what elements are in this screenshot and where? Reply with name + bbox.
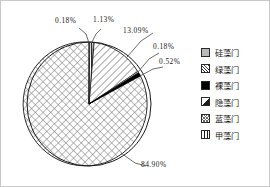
legend-swatch-diagonal-icon: [201, 64, 210, 73]
leader-line-yinzaomen: [138, 53, 159, 72]
percent-label-jiazaomen: 1.13%: [93, 15, 114, 24]
leader-line-lvzaomen: [127, 33, 153, 57]
legend-label-luozaomen: 裸藻门: [215, 79, 239, 91]
legend-label-guizaomen: 硅藻门: [215, 46, 239, 58]
pie-chart-area: 0.18% 1.13% 13.09% 0.18% 0.52% 84.90%: [1, 1, 196, 187]
leader-line-jiazaomen: [92, 29, 102, 43]
percent-label-yinzaomen: 0.18%: [153, 42, 174, 51]
legend-item-lvzaomen[interactable]: 绿藻门: [201, 61, 265, 78]
percent-label-lanzaomen: 84.90%: [141, 160, 167, 169]
percent-label-guizaomen: 0.18%: [55, 16, 76, 25]
pie-chart-svg: [1, 1, 196, 187]
legend-swatch-solid-black-icon: [201, 81, 210, 90]
percent-label-lvzaomen: 13.09%: [123, 26, 149, 35]
legend-swatch-solid-gray-icon: [201, 48, 210, 57]
legend-item-lanzaomen[interactable]: 蓝藻门: [201, 110, 265, 127]
legend-label-yinzaomen: 隐藻门: [215, 96, 239, 108]
legend-item-yinzaomen[interactable]: 隐藻门: [201, 94, 265, 111]
legend-item-guizaomen[interactable]: 硅藻门: [201, 44, 265, 61]
legend-swatch-corner-fill-icon: [201, 97, 210, 106]
chart-legend: 硅藻门 绿藻门 裸藻门 隐藻门 蓝藻门 甲藻门: [201, 44, 265, 143]
legend-swatch-cross-hatch-icon: [201, 114, 210, 123]
legend-item-jiazaomen[interactable]: 甲藻门: [201, 127, 265, 144]
legend-label-lanzaomen: 蓝藻门: [215, 112, 239, 124]
legend-item-luozaomen[interactable]: 裸藻门: [201, 77, 265, 94]
legend-swatch-vertical-bars-icon: [201, 130, 210, 139]
leader-line-guizaomen: [79, 28, 89, 43]
legend-label-jiazaomen: 甲藻门: [215, 129, 239, 141]
chart-frame: 0.18% 1.13% 13.09% 0.18% 0.52% 84.90% 硅藻…: [0, 0, 270, 187]
legend-label-lvzaomen: 绿藻门: [215, 63, 239, 75]
percent-label-luozaomen: 0.52%: [159, 57, 180, 66]
